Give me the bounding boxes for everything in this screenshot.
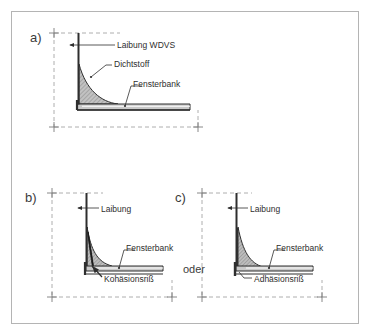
connector-oder: oder bbox=[183, 263, 205, 275]
label-laibung-b: Laibung bbox=[101, 204, 131, 214]
label-laibung-c: Laibung bbox=[250, 204, 280, 214]
panel-label-c: c) bbox=[175, 190, 186, 205]
label-adhaesionsriss: Adhäsionsriß bbox=[254, 274, 304, 284]
panel-label-a: a) bbox=[30, 30, 42, 45]
panel-label-b: b) bbox=[25, 190, 37, 205]
label-fensterbank-a: Fensterbank bbox=[133, 79, 180, 89]
label-dichtstoff: Dichtstoff bbox=[114, 59, 149, 69]
label-fensterbank-c: Fensterbank bbox=[276, 243, 323, 253]
figure-root: a) b) c) Laibung WDVS Dichtstoff Fenster… bbox=[0, 0, 371, 336]
label-fensterbank-b: Fensterbank bbox=[126, 243, 173, 253]
figure-outer-border bbox=[11, 11, 359, 324]
label-kohaesionsriss: Kohäsionsriß bbox=[104, 274, 154, 284]
label-laibung-wdvs: Laibung WDVS bbox=[117, 40, 175, 50]
